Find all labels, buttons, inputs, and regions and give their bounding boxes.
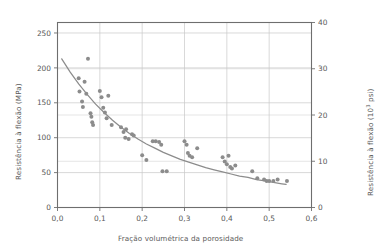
svg-text:20: 20 xyxy=(318,111,328,120)
svg-text:0,3: 0,3 xyxy=(179,214,191,223)
y-axis-title-right-suffix: psi) xyxy=(366,88,375,104)
svg-text:250: 250 xyxy=(37,29,51,38)
tick-labels: 0,00,10,20,30,40,50,60501001502002500102… xyxy=(37,18,328,222)
svg-text:0: 0 xyxy=(318,203,323,212)
svg-text:0,5: 0,5 xyxy=(263,214,275,223)
svg-text:100: 100 xyxy=(37,133,51,142)
svg-text:0,4: 0,4 xyxy=(221,214,233,223)
y-axis-title-right-exponent: 3 xyxy=(365,104,371,107)
svg-text:150: 150 xyxy=(37,98,51,107)
svg-text:0: 0 xyxy=(46,203,51,212)
svg-text:0,2: 0,2 xyxy=(136,214,148,223)
svg-text:30: 30 xyxy=(318,64,328,73)
svg-text:200: 200 xyxy=(37,64,51,73)
svg-text:40: 40 xyxy=(318,18,328,27)
svg-text:10: 10 xyxy=(318,157,328,166)
y-axis-title-right: Resistência à flexão (103 psi) xyxy=(365,88,375,196)
x-axis-title: Fração volumétrica da porosidade xyxy=(118,234,243,243)
svg-text:0,0: 0,0 xyxy=(52,214,64,223)
svg-text:0,1: 0,1 xyxy=(94,214,106,223)
svg-text:50: 50 xyxy=(42,168,52,177)
y-axis-title-left: Resistência à flexão (MPa) xyxy=(14,83,23,180)
data-points xyxy=(77,57,289,183)
fit-curve xyxy=(62,59,286,185)
svg-text:0,6: 0,6 xyxy=(306,214,318,223)
y-axis-title-right-prefix: Resistência à flexão (10 xyxy=(366,108,375,196)
